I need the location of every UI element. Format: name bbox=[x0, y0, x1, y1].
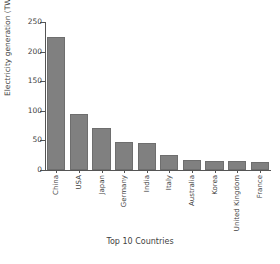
x-tick-mark bbox=[192, 170, 193, 173]
y-tick-label: 50 bbox=[32, 137, 42, 145]
bar bbox=[115, 142, 133, 170]
bar bbox=[138, 143, 156, 170]
x-tick-mark bbox=[237, 170, 238, 173]
bar bbox=[92, 128, 110, 170]
x-tick-label: Germany bbox=[121, 175, 128, 207]
x-tick-mark bbox=[260, 170, 261, 173]
x-tick-mark bbox=[56, 170, 57, 173]
bar bbox=[183, 160, 201, 170]
bar bbox=[205, 161, 223, 170]
y-tick-label: 150 bbox=[28, 77, 42, 85]
y-tick-label: 250 bbox=[28, 18, 42, 26]
x-tick-label: France bbox=[256, 175, 263, 198]
x-axis-label: Top 10 Countries bbox=[0, 238, 280, 246]
x-tick-mark bbox=[169, 170, 170, 173]
x-tick-label: Korea bbox=[211, 175, 218, 195]
y-tick-label: 200 bbox=[28, 48, 42, 56]
x-tick-mark bbox=[79, 170, 80, 173]
x-tick-label: USA bbox=[75, 175, 82, 190]
bar bbox=[70, 114, 88, 170]
bar-chart-figure: Electricity generation (TWh) 05010015020… bbox=[0, 0, 280, 264]
x-tick-label: Japan bbox=[98, 175, 105, 195]
y-tick-label: 0 bbox=[37, 166, 42, 174]
x-tick-mark bbox=[215, 170, 216, 173]
y-axis-label: Electricity generation (TWh) bbox=[4, 0, 12, 96]
bar bbox=[251, 162, 269, 170]
x-tick-mark bbox=[147, 170, 148, 173]
plot-area: 050100150200250 ChinaUSAJapanGermanyIndi… bbox=[45, 22, 271, 170]
x-tick-label: Italy bbox=[166, 175, 173, 190]
x-tick-mark bbox=[102, 170, 103, 173]
bar bbox=[228, 161, 246, 170]
y-tick-label: 100 bbox=[28, 107, 42, 115]
x-tick-mark bbox=[124, 170, 125, 173]
x-tick-label: China bbox=[53, 175, 60, 195]
bar bbox=[47, 37, 65, 170]
x-tick-label: India bbox=[143, 175, 150, 192]
x-tick-label: Australia bbox=[188, 175, 195, 206]
x-tick-label: United Kingdom bbox=[234, 175, 241, 231]
bar bbox=[160, 155, 178, 170]
